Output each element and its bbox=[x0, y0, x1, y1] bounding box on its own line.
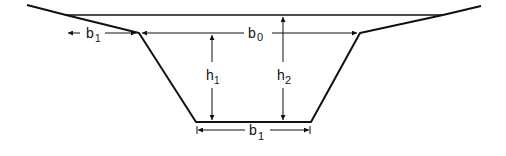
b0-label: b bbox=[248, 25, 256, 41]
b1-top-subscript: 1 bbox=[95, 33, 101, 44]
b1-bottom-label: b bbox=[249, 122, 257, 138]
b1-top-label: b bbox=[86, 25, 94, 41]
b1-bottom-subscript: 1 bbox=[258, 130, 264, 142]
channel-outline bbox=[27, 5, 481, 122]
h1-label: h bbox=[206, 67, 214, 83]
h1-subscript: 1 bbox=[214, 75, 220, 86]
h2-subscript: 2 bbox=[285, 74, 291, 86]
b0-subscript: 0 bbox=[257, 31, 263, 43]
h2-label: h bbox=[277, 67, 285, 83]
channel-diagram: b 0 b 1 h 1 h 2 b 1 bbox=[0, 0, 506, 156]
